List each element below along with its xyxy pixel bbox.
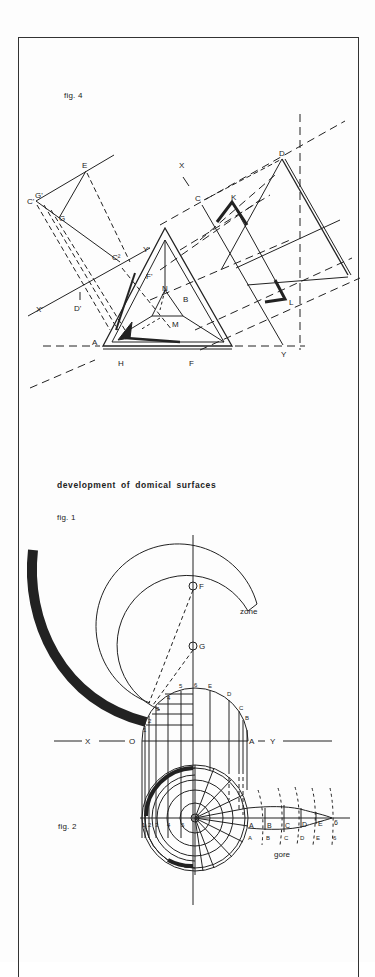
fig4-drawing <box>28 114 360 388</box>
svg-text:D: D <box>300 835 305 841</box>
svg-text:5: 5 <box>181 822 185 828</box>
svg-text:C: C <box>239 705 244 711</box>
svg-text:G: G <box>199 642 205 651</box>
svg-text:1: 1 <box>143 727 147 733</box>
svg-text:C: C <box>285 822 290 829</box>
svg-text:F: F <box>189 359 194 368</box>
svg-text:X': X' <box>36 305 43 314</box>
svg-text:H: H <box>118 359 124 368</box>
svg-text:E: E <box>316 835 320 841</box>
svg-text:2: 2 <box>148 718 152 724</box>
svg-text:4: 4 <box>167 695 171 701</box>
svg-text:E: E <box>208 683 212 689</box>
svg-text:C²: C² <box>112 253 121 262</box>
svg-text:6: 6 <box>333 835 337 841</box>
svg-text:F: F <box>199 582 204 591</box>
svg-text:Y: Y <box>281 350 287 359</box>
svg-text:D: D <box>302 821 307 828</box>
svg-text:N: N <box>162 284 168 293</box>
svg-text:A: A <box>92 338 98 347</box>
svg-text:O: O <box>129 737 135 746</box>
svg-text:G': G' <box>35 191 43 200</box>
svg-text:C: C <box>284 835 289 841</box>
svg-text:F': F' <box>146 272 153 281</box>
svg-text:A: A <box>249 822 254 829</box>
svg-text:3: 3 <box>156 706 160 712</box>
svg-text:B: B <box>183 295 188 304</box>
svg-text:D: D <box>279 149 285 158</box>
svg-text:Y: Y <box>270 737 276 746</box>
svg-text:6: 6 <box>194 682 198 688</box>
svg-text:gore: gore <box>274 850 291 859</box>
svg-text:D': D' <box>74 304 82 313</box>
svg-text:4: 4 <box>167 822 171 828</box>
svg-text:2: 2 <box>148 822 152 828</box>
svg-text:Y': Y' <box>143 245 150 254</box>
svg-text:6: 6 <box>334 819 338 826</box>
svg-text:E: E <box>82 161 87 170</box>
svg-text:B: B <box>266 835 270 841</box>
svg-text:C: C <box>195 194 201 203</box>
svg-text:zone: zone <box>240 607 258 616</box>
svg-text:B: B <box>267 822 272 829</box>
svg-text:G: G <box>59 214 65 223</box>
svg-text:5: 5 <box>179 683 183 689</box>
svg-text:E: E <box>318 820 323 827</box>
svg-text:C': C' <box>27 197 35 206</box>
svg-text:D: D <box>227 691 232 697</box>
svg-text:X: X <box>179 161 185 170</box>
svg-text:L: L <box>289 298 294 307</box>
svg-text:B: B <box>245 715 249 721</box>
fig4-labels: E C' G' G C² Y' X' D' F' N B M A H F X C… <box>27 149 294 368</box>
svg-text:K: K <box>231 193 237 202</box>
svg-text:A: A <box>249 737 255 746</box>
svg-text:X: X <box>85 737 91 746</box>
svg-text:A: A <box>248 835 252 841</box>
svg-text:M: M <box>172 320 179 329</box>
